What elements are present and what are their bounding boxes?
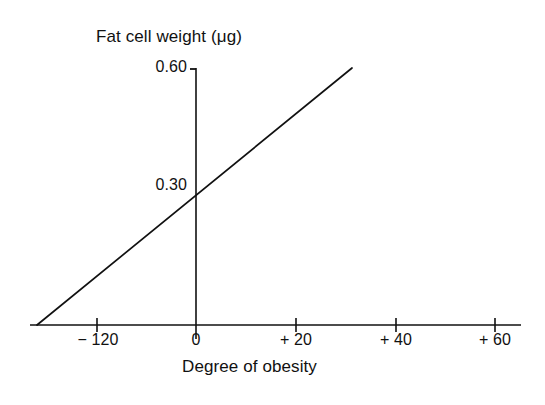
chart-title: Fat cell weight (μg): [96, 27, 242, 47]
x-axis-title: Degree of obesity: [182, 357, 317, 377]
x-axis-tick-label-m120: − 120: [62, 331, 134, 349]
x-axis-tick-label-0: 0: [166, 331, 226, 349]
x-axis-tick-label-p60: + 60: [465, 331, 525, 349]
y-axis-tick-label-030: 0.30: [125, 176, 187, 194]
y-axis-tick-label-060: 0.60: [125, 58, 187, 76]
chart-figure: Fat cell weight (μg) 0.60 0.30 − 120 0 +…: [0, 0, 545, 405]
data-line-fat-cell-weight: [37, 68, 352, 325]
x-axis-tick-label-p20: + 20: [266, 331, 326, 349]
x-axis-tick-label-p40: + 40: [366, 331, 426, 349]
